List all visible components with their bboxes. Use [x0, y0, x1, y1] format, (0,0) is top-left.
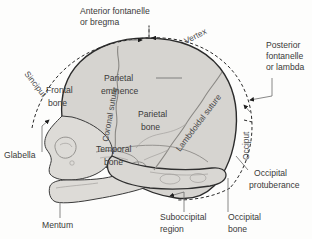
leader-glabella-a [42, 120, 49, 126]
label-temporal-bone: Temporal [96, 144, 131, 154]
dashed-lambda-tick-1 [244, 120, 252, 122]
label-posterior-fontanelle-line2: fontanelle [266, 51, 303, 61]
label-suboccipital-region-line2: region [160, 224, 184, 234]
fetal-skull-diagram: Anterior fontanelle or bregma Vertex Pos… [0, 0, 312, 239]
label-occipital-protuberance-line2: protuberance [249, 180, 300, 190]
label-mentum: Mentum [42, 220, 73, 230]
label-anterior-fontanelle-line2: or bregma [80, 17, 119, 27]
label-frontal-bone-line2: bone [48, 98, 67, 108]
label-parietal-bone: Parietal [138, 109, 167, 119]
label-parietal-bone-line2: bone [141, 122, 160, 132]
arrow-lambda [244, 105, 250, 112]
label-temporal-bone-line2: bone [104, 157, 123, 167]
label-posterior-fontanelle-line3: or lambda [266, 62, 304, 72]
label-suboccipital-region: Suboccipital [160, 212, 206, 222]
label-parietal-eminence: Parietal [104, 73, 133, 83]
label-frontal-bone: Frontal [46, 85, 73, 95]
label-parietal-eminence-line2: eminence [101, 86, 138, 96]
label-posterior-fontanelle: Posterior [266, 40, 301, 50]
label-anterior-fontanelle: Anterior fontanelle [80, 6, 150, 16]
label-occipital-protuberance: Occipital [254, 168, 287, 178]
leader-posterior-fontanelle-a [250, 96, 272, 100]
label-glabella: Glabella [4, 150, 36, 160]
label-occiput: Occiput [241, 131, 251, 160]
label-vertex: Vertex [182, 26, 208, 46]
label-occipital-bone: Occipital [228, 212, 261, 222]
label-occipital-bone-line2: bone [228, 224, 247, 234]
